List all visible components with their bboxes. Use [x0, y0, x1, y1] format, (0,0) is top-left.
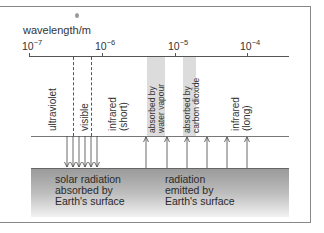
solar-down-arrows: [65, 136, 100, 167]
emitted-up-arrows: [144, 137, 250, 168]
solar-absorbed-text: solar radiation absorbed by Earth's surf…: [55, 174, 125, 207]
earth-emitted-text: radiation emitted by Earth's surface: [165, 174, 235, 207]
